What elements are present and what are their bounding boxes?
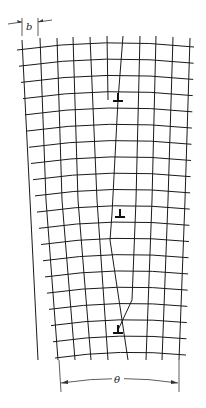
- lattice-row: [45, 271, 188, 277]
- lattice-row: [37, 206, 190, 212]
- lattice-column: [179, 38, 190, 360]
- lattice-row: [19, 59, 194, 66]
- lattice-column: [90, 37, 108, 360]
- edge-dislocation-icon: [113, 325, 123, 333]
- lattice-column: [162, 37, 173, 360]
- lattice-row: [17, 43, 194, 50]
- edge-dislocation-icon: [115, 209, 125, 217]
- lattice-column: [40, 38, 58, 360]
- lattice-row: [21, 75, 193, 82]
- spacing-dimension: b: [8, 18, 52, 36]
- lattice-row: [49, 303, 187, 309]
- dislocation-grid-figure: b θ: [0, 0, 206, 408]
- spacing-label: b: [26, 21, 32, 32]
- angle-dimension: θ: [59, 360, 179, 392]
- edge-dislocation-icon: [113, 93, 123, 101]
- angle-label: θ: [114, 374, 120, 385]
- lattice-row: [29, 141, 191, 148]
- lattice-row: [25, 108, 192, 115]
- lattice-column: [146, 36, 156, 360]
- lattice-column: [118, 36, 140, 330]
- lattice-column: [73, 37, 91, 360]
- lattice-row: [31, 157, 191, 164]
- lattice-column: [22, 40, 38, 360]
- lattice-grid: [17, 36, 194, 360]
- lattice-column: [57, 38, 75, 360]
- lattice-column: [107, 36, 108, 100]
- lattice-column: [110, 36, 128, 360]
- lattice-row: [43, 255, 189, 261]
- lattice-row: [33, 173, 191, 180]
- lattice-row: [27, 124, 192, 131]
